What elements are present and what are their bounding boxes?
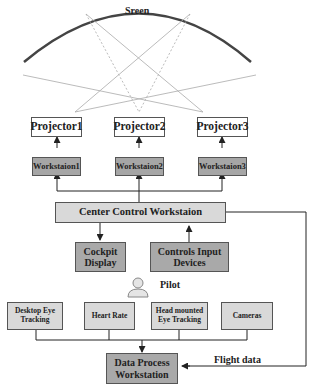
workstation-1: Workstaion1 [32, 157, 81, 176]
sensor-heart-rate: Heart Rate [84, 302, 135, 330]
workstation-3: Workstaion3 [198, 157, 247, 176]
flight-data-label: Flight data [214, 354, 261, 365]
sensor-head-mounted-eye-tracking: Head mounted Eye Tracking [151, 302, 208, 330]
projector-1: Projector1 [31, 117, 82, 137]
center-control-workstation: Center Control Workstaion [55, 202, 226, 223]
screen-label: Sreen [125, 5, 149, 16]
cockpit-display: Cockpit Display [75, 242, 126, 272]
projector-2: Projector2 [114, 117, 165, 137]
controls-input-devices: Controls Input Devices [150, 242, 229, 272]
projector-3: Projector3 [197, 117, 248, 137]
person-icon [127, 276, 149, 298]
screen-arc [24, 14, 251, 63]
sensor-desktop-eye-tracking: Desktop Eye Tracking [7, 302, 63, 330]
data-process-workstation: Data Process Workstation [106, 353, 178, 384]
pilot-label: Pilot [160, 279, 180, 290]
sensor-cameras: Cameras [221, 302, 273, 330]
workstation-2: Workstaion2 [115, 157, 164, 176]
